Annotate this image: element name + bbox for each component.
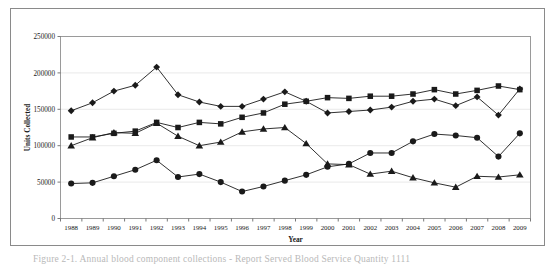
data-point-marker <box>132 167 138 173</box>
data-point-marker <box>496 83 502 89</box>
x-axis-title: Year <box>288 235 303 244</box>
data-point-marker <box>453 132 459 138</box>
data-point-marker <box>175 125 181 131</box>
data-point-marker <box>431 96 438 103</box>
data-point-marker <box>89 99 96 106</box>
data-point-marker <box>324 109 331 116</box>
data-point-marker <box>517 130 523 136</box>
x-axis-tick-label: 1994 <box>192 224 206 231</box>
data-point-marker <box>324 164 330 170</box>
data-point-marker <box>217 138 225 144</box>
data-point-marker <box>389 150 395 156</box>
y-axis-tick-label: 250000 <box>33 33 55 41</box>
x-axis-tick-label: 1998 <box>278 224 292 231</box>
x-axis-tick-label: 2000 <box>321 224 335 231</box>
data-point-marker <box>239 115 245 121</box>
data-point-marker <box>346 96 352 102</box>
data-point-marker <box>89 180 95 186</box>
data-point-marker <box>175 174 181 180</box>
data-point-marker <box>281 124 289 130</box>
x-axis-tick-label: 2003 <box>385 224 399 231</box>
x-axis-tick-label: 1988 <box>64 224 78 231</box>
data-point-marker <box>239 189 245 195</box>
x-axis-tick-label: 1995 <box>214 224 228 231</box>
data-point-marker <box>410 98 417 105</box>
series-diamond <box>68 64 524 119</box>
x-axis-tick-label: 1992 <box>150 224 164 231</box>
plot-area-border <box>61 37 531 219</box>
data-point-marker <box>174 133 182 139</box>
data-point-marker <box>67 142 75 148</box>
x-axis-tick-label: 1999 <box>299 224 313 231</box>
y-axis-tick-label: 100000 <box>33 142 55 150</box>
x-axis-tick-label: 1989 <box>86 224 100 231</box>
data-point-marker <box>281 88 288 95</box>
data-point-marker <box>260 96 267 103</box>
series-line <box>71 86 520 137</box>
y-axis-tick-label: 200000 <box>33 70 55 78</box>
data-point-marker <box>410 138 416 144</box>
data-point-marker <box>68 180 74 186</box>
data-point-marker <box>282 101 288 107</box>
data-point-marker <box>68 107 75 114</box>
data-point-marker <box>452 102 459 109</box>
data-point-marker <box>389 93 395 99</box>
data-point-marker <box>474 135 480 141</box>
data-point-marker <box>431 131 437 137</box>
x-axis-tick-label: 2007 <box>470 224 484 231</box>
x-axis-tick-label: 1993 <box>171 224 185 231</box>
y-axis-tick-label: 0 <box>51 215 55 223</box>
data-point-marker <box>110 88 117 95</box>
data-point-marker <box>495 154 501 160</box>
data-point-marker <box>346 161 352 167</box>
data-point-marker <box>239 103 246 110</box>
data-point-marker <box>111 173 117 179</box>
line-chart: 0500001000001500002000002500001988198919… <box>0 0 557 267</box>
data-point-marker <box>432 87 438 93</box>
series-square <box>68 83 522 139</box>
data-point-marker <box>303 172 309 178</box>
data-point-marker <box>453 91 459 97</box>
data-point-marker <box>196 99 203 106</box>
x-axis-tick-label: 1990 <box>107 224 121 231</box>
y-axis-tick-label: 150000 <box>33 106 55 114</box>
data-point-marker <box>303 99 309 105</box>
figure-container: 0500001000001500002000002500001988198919… <box>0 0 557 267</box>
data-point-marker <box>473 173 481 179</box>
series-line <box>71 133 520 191</box>
x-axis-tick-label: 2001 <box>342 224 356 231</box>
data-point-marker <box>218 121 224 127</box>
data-point-marker <box>516 171 524 177</box>
x-axis-tick-label: 1996 <box>235 224 249 231</box>
data-point-marker <box>474 88 480 94</box>
data-point-marker <box>260 183 266 189</box>
data-point-marker <box>517 87 523 93</box>
figure-caption: Figure 2-1. Annual blood component colle… <box>33 254 533 264</box>
data-point-marker <box>367 150 373 156</box>
x-axis-tick-label: 2009 <box>513 224 527 231</box>
data-point-marker <box>196 171 202 177</box>
y-axis-tick-label: 50000 <box>37 179 55 187</box>
x-axis-tick-label: 1991 <box>128 224 142 231</box>
data-point-marker <box>325 95 331 101</box>
x-axis-tick-label: 2006 <box>449 224 463 231</box>
data-point-marker <box>282 178 288 184</box>
x-axis-tick-label: 2002 <box>363 224 377 231</box>
x-axis-tick-label: 2008 <box>492 224 506 231</box>
data-point-marker <box>410 91 416 97</box>
series-circle <box>68 130 523 194</box>
data-point-marker <box>261 110 267 116</box>
data-point-marker <box>217 103 224 110</box>
data-point-marker <box>218 179 224 185</box>
data-point-marker <box>302 140 310 146</box>
x-axis-tick-label: 2005 <box>427 224 441 231</box>
x-axis-tick-label: 2004 <box>406 224 420 231</box>
data-point-marker <box>197 120 203 126</box>
data-point-marker <box>368 93 374 99</box>
data-point-marker <box>68 134 74 140</box>
series-line <box>71 67 520 115</box>
data-point-marker <box>367 107 374 114</box>
data-point-marker <box>388 168 396 174</box>
x-axis-tick-label: 1997 <box>257 224 271 231</box>
data-point-marker <box>154 157 160 163</box>
